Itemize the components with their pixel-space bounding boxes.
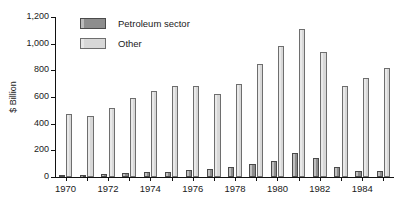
x-tick-mark	[299, 177, 300, 181]
y-tick-label: 800	[15, 64, 49, 74]
legend-item-other: Other	[80, 38, 190, 49]
bar-other	[236, 84, 242, 177]
x-tick-mark	[256, 177, 257, 181]
bar-other	[193, 86, 199, 177]
bar-petroleum	[165, 172, 171, 177]
y-tick-label: 1,200	[15, 11, 49, 21]
y-tick-mark	[51, 177, 56, 178]
bar-petroleum	[313, 158, 319, 177]
bar-other	[66, 114, 72, 177]
bar-group	[207, 17, 221, 177]
chart-figure: $ Billion 02004006008001,0001,200 197019…	[0, 0, 399, 217]
bar-petroleum	[59, 175, 65, 177]
x-tick-label: 1978	[218, 183, 252, 194]
x-tick-mark	[129, 177, 130, 181]
bar-petroleum	[80, 175, 86, 177]
legend-item-petroleum: Petroleum sector	[80, 18, 190, 29]
bar-other	[257, 64, 263, 177]
bar-petroleum	[122, 173, 128, 177]
bar-group	[313, 17, 327, 177]
bar-group	[377, 17, 391, 177]
x-tick-mark	[172, 177, 173, 181]
bar-group	[249, 17, 263, 177]
bar-petroleum	[377, 171, 383, 177]
y-tick-label: 400	[15, 118, 49, 128]
x-tick-label: 1976	[176, 183, 210, 194]
x-tick-mark	[214, 177, 215, 181]
bar-petroleum	[334, 167, 340, 177]
bar-petroleum	[101, 174, 107, 177]
bar-other	[109, 108, 115, 177]
bar-group	[334, 17, 348, 177]
petroleum-swatch	[80, 18, 106, 29]
x-tick-mark	[150, 177, 151, 181]
x-tick-mark	[66, 177, 67, 181]
y-tick-label: 200	[15, 144, 49, 154]
bar-other	[87, 116, 93, 177]
x-axis-line	[55, 177, 394, 178]
bar-other	[172, 86, 178, 177]
bar-group	[271, 17, 285, 177]
x-tick-label: 1974	[133, 183, 167, 194]
x-tick-mark	[108, 177, 109, 181]
x-tick-label: 1970	[49, 183, 83, 194]
x-tick-label: 1984	[345, 183, 379, 194]
x-tick-label: 1972	[91, 183, 125, 194]
bar-group	[228, 17, 242, 177]
x-tick-mark	[193, 177, 194, 181]
legend-label-other: Other	[118, 38, 142, 49]
y-tick-label: 600	[15, 91, 49, 101]
bar-petroleum	[249, 164, 255, 177]
bar-other	[363, 78, 369, 177]
bar-group	[59, 17, 73, 177]
bar-other	[214, 94, 220, 177]
bar-petroleum	[207, 169, 213, 177]
bar-other	[278, 46, 284, 177]
x-tick-mark	[362, 177, 363, 181]
bar-petroleum	[271, 161, 277, 177]
bar-other	[384, 68, 390, 177]
bar-group	[355, 17, 369, 177]
bar-other	[342, 86, 348, 177]
x-tick-label: 1980	[260, 183, 294, 194]
x-tick-mark	[87, 177, 88, 181]
y-tick-label: 1,000	[15, 38, 49, 48]
x-tick-mark	[341, 177, 342, 181]
x-tick-mark	[277, 177, 278, 181]
x-tick-mark	[383, 177, 384, 181]
bar-petroleum	[292, 153, 298, 177]
bar-other	[130, 98, 136, 177]
other-swatch	[80, 38, 106, 49]
bar-other	[151, 91, 157, 177]
bar-other	[299, 29, 305, 177]
x-tick-label: 1982	[303, 183, 337, 194]
x-tick-mark	[320, 177, 321, 181]
bar-group	[292, 17, 306, 177]
chart-legend: Petroleum sector Other	[80, 18, 190, 58]
bar-petroleum	[144, 172, 150, 177]
legend-label-petroleum: Petroleum sector	[118, 18, 190, 29]
bar-other	[320, 52, 326, 177]
bar-petroleum	[186, 170, 192, 177]
bar-petroleum	[355, 171, 361, 177]
y-tick-label: 0	[15, 171, 49, 181]
x-tick-mark	[235, 177, 236, 181]
bar-petroleum	[228, 167, 234, 177]
